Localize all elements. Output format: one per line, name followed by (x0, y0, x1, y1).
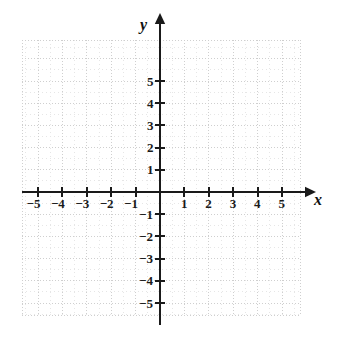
x-tick-label: −4 (51, 197, 65, 210)
x-axis-name: x (314, 192, 322, 208)
x-tick-label: −1 (124, 197, 138, 210)
x-tick-label: 2 (205, 197, 212, 210)
y-tick-label: 4 (147, 97, 154, 110)
x-tick-label: −3 (75, 197, 89, 210)
axis-lines (22, 13, 316, 325)
y-tick-label: −4 (139, 274, 153, 287)
y-axis-name: y (140, 17, 147, 33)
y-tick-label: 3 (147, 119, 154, 132)
y-tick-label: −1 (139, 208, 153, 221)
y-tick-label: 1 (147, 163, 154, 176)
y-tick-label: 5 (147, 75, 154, 88)
x-tick-label: 3 (230, 197, 237, 210)
x-tick-label: 4 (254, 197, 261, 210)
y-tick-label: −3 (139, 252, 153, 265)
y-tick-label: 2 (147, 141, 154, 154)
y-tick-label: −2 (139, 230, 153, 243)
y-tick-label: −5 (139, 297, 153, 310)
plot-svg (0, 0, 340, 348)
x-tick-label: 1 (181, 197, 188, 210)
x-tick-label: −2 (100, 197, 114, 210)
x-tick-label: −5 (27, 197, 41, 210)
coordinate-plane-figure: −5−4−3−2−11234554321−1−2−3−4−5 y x (0, 0, 340, 348)
x-tick-label: 5 (279, 197, 286, 210)
